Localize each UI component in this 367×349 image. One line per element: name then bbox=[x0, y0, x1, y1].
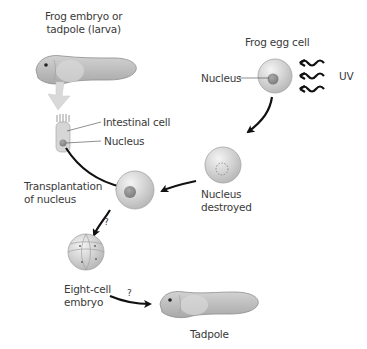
label-uv: UV bbox=[339, 70, 353, 83]
enucleated-transfer-arrow bbox=[162, 181, 196, 191]
result-tadpole bbox=[160, 292, 258, 318]
label-source: Frog embryo or tadpole (larva) bbox=[45, 10, 122, 36]
label-egg-nucleus: Nucleus bbox=[201, 72, 241, 85]
nuclear-transplant-diagram: Frog embryo or tadpole (larva) Frog egg … bbox=[0, 0, 367, 349]
label-nucleus-destroyed: Nucleus destroyed bbox=[201, 188, 252, 214]
label-question-2: ? bbox=[127, 287, 132, 300]
eye-icon bbox=[44, 63, 48, 67]
recipient-egg bbox=[116, 171, 154, 209]
label-transplantation: Transplantation of nucleus bbox=[24, 180, 102, 206]
source-tadpole bbox=[36, 56, 136, 85]
enucleated-egg bbox=[205, 147, 241, 183]
extraction-arrow bbox=[48, 82, 70, 110]
label-tadpole: Tadpole bbox=[190, 328, 229, 341]
label-intestinal-nucleus: Nucleus bbox=[104, 135, 144, 148]
diagram-graphics bbox=[0, 0, 367, 349]
eight-cell-embryo bbox=[68, 234, 104, 270]
intestinal-cell bbox=[56, 114, 70, 152]
uv-result-arrow bbox=[248, 97, 272, 132]
label-question-1: ? bbox=[104, 216, 109, 229]
label-intestinal-cell: Intestinal cell bbox=[103, 116, 170, 129]
label-egg-cell: Frog egg cell bbox=[245, 36, 309, 49]
frog-egg-cell bbox=[258, 59, 292, 93]
uv-rays bbox=[300, 60, 324, 92]
label-eight-cell: Eight-cell embryo bbox=[64, 283, 111, 309]
